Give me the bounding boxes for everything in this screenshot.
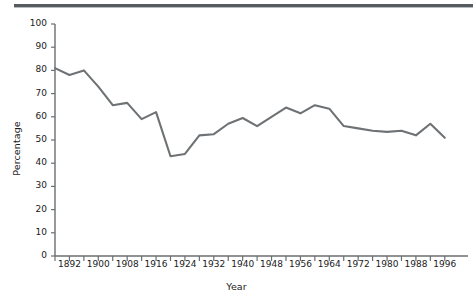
- y-tick-label: 70: [21, 89, 47, 98]
- y-tick-label: 50: [21, 135, 47, 144]
- y-tick-label: 90: [21, 42, 47, 51]
- y-tick-label: 100: [21, 19, 47, 28]
- x-tick-label: 1996: [425, 259, 465, 269]
- y-tick-label: 40: [21, 158, 47, 167]
- y-tick-label: 80: [21, 65, 47, 74]
- y-tick-label: 60: [21, 112, 47, 121]
- plot-area: 0102030405060708090100 18921900190819161…: [0, 0, 473, 302]
- chart-figure: 0102030405060708090100 18921900190819161…: [0, 0, 473, 302]
- data-series-line: [55, 68, 445, 156]
- y-tick-label: 20: [21, 205, 47, 214]
- x-axis-title: Year: [0, 281, 473, 292]
- chart-axes: [55, 24, 468, 256]
- line-chart-svg: [0, 0, 473, 302]
- chart-tick-marks: [51, 24, 445, 261]
- y-tick-label: 30: [21, 181, 47, 190]
- y-tick-label: 0: [21, 251, 47, 260]
- y-axis-title: Percentage: [11, 104, 22, 194]
- y-tick-label: 10: [21, 228, 47, 237]
